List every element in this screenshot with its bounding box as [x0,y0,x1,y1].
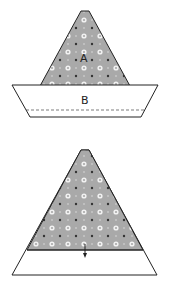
label-b: B [81,94,89,107]
bottom-figure [12,150,157,275]
triangle-piece-a [40,11,130,86]
label-a: A [80,52,88,65]
top-figure: A B [12,11,158,117]
shaded-triangle-area [27,150,143,250]
diagram-canvas: A B [0,0,171,288]
